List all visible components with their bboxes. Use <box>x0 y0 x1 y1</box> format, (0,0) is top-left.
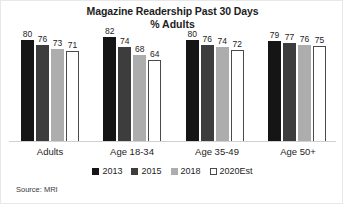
bar-value-label: 68 <box>135 45 144 54</box>
legend-label: 2015 <box>141 166 161 176</box>
category-label-age-18-34: Age 18-34 <box>92 146 172 162</box>
legend-item-2015[interactable]: 2015 <box>131 166 161 176</box>
bar-value-label: 75 <box>315 36 324 45</box>
bar-wrap: 72 <box>231 37 244 142</box>
bar-value-label: 64 <box>150 50 159 59</box>
bar-wrap: 74 <box>216 37 229 142</box>
bar-2018[interactable] <box>133 55 146 142</box>
bar-2015[interactable] <box>283 43 296 142</box>
source-note: Source: MRI <box>16 185 58 194</box>
bar-wrap: 77 <box>283 37 296 142</box>
bar-value-label: 82 <box>105 27 114 36</box>
bar-2015[interactable] <box>201 45 214 142</box>
bar-wrap: 76 <box>201 37 214 142</box>
bar-2020est[interactable] <box>148 60 161 142</box>
bar-wrap: 68 <box>133 37 146 142</box>
legend-swatch-icon <box>210 168 217 175</box>
bar-wrap: 73 <box>51 37 64 142</box>
bar-2013[interactable] <box>103 37 116 142</box>
bar-2013[interactable] <box>186 40 199 143</box>
x-axis-category-labels: Adults Age 18-34 Age 35-49 Age 50+ <box>9 146 336 162</box>
bar-value-label: 79 <box>270 31 279 40</box>
bar-wrap: 74 <box>118 37 131 142</box>
bar-wrap: 71 <box>66 37 79 142</box>
x-axis-line <box>9 141 336 142</box>
bar-2020est[interactable] <box>66 51 79 142</box>
bar-value-label: 71 <box>68 41 77 50</box>
legend-item-2013[interactable]: 2013 <box>92 166 122 176</box>
bar-value-label: 76 <box>38 35 47 44</box>
legend-item-2018[interactable]: 2018 <box>171 166 201 176</box>
legend-swatch-icon <box>92 168 99 175</box>
category-label-age-35-49: Age 35-49 <box>177 146 257 162</box>
bar-value-label: 80 <box>187 30 196 39</box>
bar-value-label: 74 <box>217 37 226 46</box>
bar-wrap: 80 <box>186 37 199 142</box>
chart-subtitle: % Adults <box>1 18 343 31</box>
bar-wrap: 76 <box>298 37 311 142</box>
bar-2018[interactable] <box>216 47 229 142</box>
bar-2020est[interactable] <box>231 50 244 142</box>
bar-value-label: 76 <box>202 35 211 44</box>
bar-2015[interactable] <box>36 45 49 142</box>
bar-value-label: 80 <box>23 30 32 39</box>
page-title: Magazine Readership Past 30 Days <box>1 5 343 18</box>
legend-label: 2020Est <box>220 166 253 176</box>
legend-label: 2013 <box>102 166 122 176</box>
chart-legend: 2013 2015 2018 2020Est <box>1 166 343 176</box>
bar-wrap: 82 <box>103 37 116 142</box>
legend-item-2020est[interactable]: 2020Est <box>210 166 253 176</box>
bar-value-label: 74 <box>120 37 129 46</box>
bar-group-age-18-34: 82 74 68 64 <box>103 37 161 142</box>
legend-label: 2018 <box>181 166 201 176</box>
bar-group-adults: 80 76 73 71 <box>21 37 79 142</box>
bar-value-label: 72 <box>232 40 241 49</box>
chart-title-block: Magazine Readership Past 30 Days % Adult… <box>1 5 343 30</box>
bar-value-label: 76 <box>300 35 309 44</box>
bar-2018[interactable] <box>298 45 311 142</box>
bar-2015[interactable] <box>118 47 131 142</box>
bar-wrap: 75 <box>313 37 326 142</box>
bar-2018[interactable] <box>51 49 64 143</box>
bar-value-label: 77 <box>285 33 294 42</box>
bar-group-age-35-49: 80 76 74 72 <box>186 37 244 142</box>
legend-swatch-icon <box>131 168 138 175</box>
bar-2013[interactable] <box>268 41 281 142</box>
chart-container: Magazine Readership Past 30 Days % Adult… <box>0 0 343 204</box>
bar-wrap: 64 <box>148 37 161 142</box>
category-label-adults: Adults <box>13 146 87 162</box>
category-label-age-50-plus: Age 50+ <box>262 146 334 162</box>
plot-area: 80 76 73 71 82 74 <box>9 37 336 142</box>
bar-wrap: 79 <box>268 37 281 142</box>
legend-swatch-icon <box>171 168 178 175</box>
bar-group-age-50-plus: 79 77 76 75 <box>268 37 326 142</box>
bar-value-label: 73 <box>53 39 62 48</box>
bar-2020est[interactable] <box>313 46 326 142</box>
bar-wrap: 80 <box>21 37 34 142</box>
bar-wrap: 76 <box>36 37 49 142</box>
bar-2013[interactable] <box>21 40 34 143</box>
